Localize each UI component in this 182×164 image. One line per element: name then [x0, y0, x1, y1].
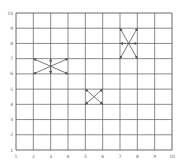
- arrow: [94, 89, 103, 97]
- y-tick-label: 5: [10, 87, 13, 92]
- arrow: [120, 28, 129, 43]
- x-axis-ticks: 12345678910: [15, 154, 175, 159]
- x-tick-label: 9: [153, 154, 156, 159]
- y-tick-label: 10: [7, 11, 13, 16]
- y-tick-label: 6: [10, 71, 13, 76]
- y-tick-label: 7: [10, 56, 13, 61]
- y-tick-label: 8: [10, 41, 13, 46]
- x-tick-label: 3: [49, 154, 52, 159]
- x-tick-label: 8: [136, 154, 139, 159]
- arrow: [120, 43, 129, 58]
- vector-diagram: 12345678910 12345678910: [0, 0, 182, 164]
- arrow: [33, 59, 50, 67]
- y-tick-label: 3: [10, 117, 13, 122]
- arrow: [51, 59, 68, 67]
- arrow: [85, 97, 94, 105]
- x-tick-label: 1: [15, 154, 18, 159]
- y-tick-label: 9: [10, 26, 13, 31]
- x-tick-label: 7: [119, 154, 122, 159]
- middle-group: [85, 89, 102, 104]
- arrow: [129, 43, 138, 58]
- x-tick-label: 2: [32, 154, 35, 159]
- arrow: [94, 97, 103, 105]
- arrow: [85, 89, 94, 97]
- arrow: [129, 28, 138, 43]
- y-tick-label: 4: [10, 102, 13, 107]
- y-tick-label: 2: [10, 132, 13, 137]
- arrow: [51, 66, 68, 74]
- x-tick-label: 4: [67, 154, 70, 159]
- x-tick-label: 10: [169, 154, 175, 159]
- arrow: [33, 66, 50, 74]
- left-group: [33, 59, 68, 74]
- y-axis-ticks: 12345678910: [7, 11, 13, 153]
- right-group: [120, 28, 137, 58]
- grid-lines: [16, 13, 172, 150]
- y-tick-label: 1: [10, 148, 13, 153]
- x-tick-label: 5: [84, 154, 87, 159]
- x-tick-label: 6: [101, 154, 104, 159]
